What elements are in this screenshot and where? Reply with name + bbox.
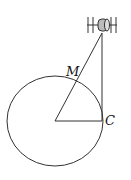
label-m: M [66,64,79,79]
label-c: C [105,113,115,128]
satellite-icon [87,17,117,33]
geometry-diagram [0,0,131,180]
